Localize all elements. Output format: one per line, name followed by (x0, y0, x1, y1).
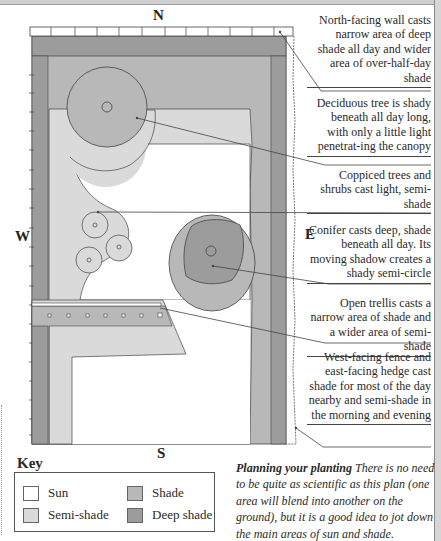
key-legend: Sun Shade Semi-shade Deep shade (14, 472, 215, 532)
north-wall (30, 27, 293, 36)
caption-heading: Planning your planting (236, 461, 352, 475)
deep-shade-swatch (127, 508, 143, 523)
caption: Planning your planting There is no need … (236, 460, 436, 541)
east-hedge-deep-shade (271, 56, 286, 444)
note-coppiced-trees: Coppiced trees and shrubs cast light, se… (307, 168, 431, 214)
note-conifer: Conifer casts deep, shade beneath all da… (307, 223, 431, 284)
note-north-wall: North-facing wall casts narrow area of d… (307, 13, 431, 88)
key-item-deep-shade: Deep shade (127, 507, 212, 523)
semi-shade-swatch (23, 508, 39, 523)
deciduous-tree (67, 67, 147, 147)
conifer (184, 220, 244, 284)
key-item-semi-shade: Semi-shade (23, 507, 109, 523)
note-fence-hedge: West-facing fence and east-facing hedge … (307, 350, 431, 425)
coppiced-tree-2 (106, 235, 132, 261)
coppiced-tree-1 (82, 212, 108, 238)
key-item-sun: Sun (23, 485, 68, 501)
note-deciduous-tree: Deciduous tree is shady beneath all day … (307, 96, 431, 157)
key-item-shade: Shade (127, 485, 184, 501)
north-wall-deep-shade (32, 36, 286, 56)
sun-swatch (23, 486, 39, 501)
note-trellis: Open trellis casts a narrow area of shad… (307, 296, 431, 357)
trellis (32, 303, 161, 306)
key-title: Key (17, 455, 43, 472)
coppiced-tree-3 (76, 247, 102, 273)
east-hedge (286, 36, 296, 444)
shade-swatch (127, 486, 143, 501)
